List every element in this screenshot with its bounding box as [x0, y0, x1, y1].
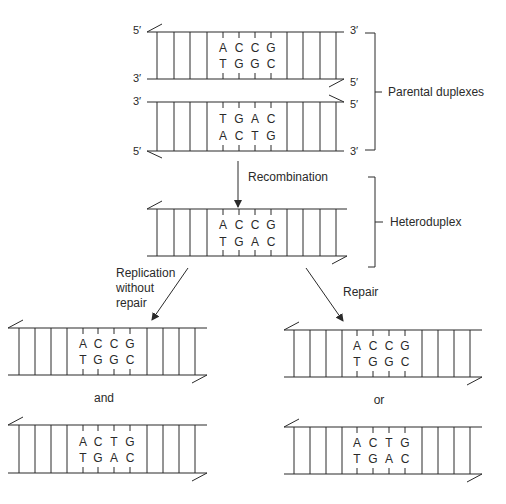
base: T — [79, 353, 87, 367]
base: G — [400, 339, 409, 353]
parental-duplexes-label: Parental duplexes — [388, 85, 484, 99]
base: G — [250, 57, 259, 71]
base: T — [353, 355, 361, 369]
and-label: and — [94, 391, 114, 405]
five-prime-label: 5′ — [133, 24, 141, 36]
repair-duplex-2: A C T G T G A C — [284, 419, 482, 482]
base: T — [79, 451, 87, 465]
base: C — [401, 355, 410, 369]
base: C — [251, 218, 260, 232]
heteroduplex-bracket — [368, 177, 383, 267]
base: G — [266, 41, 275, 55]
recombination-label: Recombination — [248, 170, 328, 184]
base: A — [219, 129, 227, 143]
rungs — [19, 425, 195, 473]
rungs — [157, 32, 336, 79]
rungs — [294, 330, 470, 377]
rungs — [157, 209, 336, 256]
dna-recombination-diagram: A C C G T G G C 5′ 3′ 3′ 5′ — [0, 0, 506, 504]
base: T — [110, 435, 118, 449]
base: A — [79, 337, 87, 351]
base: C — [126, 451, 135, 465]
base: G — [234, 57, 243, 71]
five-prime-label: 5′ — [133, 145, 141, 157]
five-prime-label: 5′ — [350, 98, 358, 110]
rungs — [19, 328, 195, 375]
base: C — [369, 339, 378, 353]
base: A — [219, 218, 227, 232]
rungs — [157, 102, 336, 151]
no-repair-duplex-1: A C C G T G G C — [8, 320, 207, 383]
repair-arrow — [306, 268, 343, 321]
base: T — [385, 436, 393, 450]
base: A — [353, 339, 361, 353]
parental-duplex-2: T G A C A C T G 3′ 5′ 5′ 3′ — [133, 95, 358, 158]
replication-label-line2: without — [115, 281, 155, 295]
base: C — [385, 339, 394, 353]
base: G — [109, 353, 118, 367]
heteroduplex: A C C G T G A C — [147, 201, 347, 264]
base: C — [235, 41, 244, 55]
base: G — [266, 129, 275, 143]
parental-bracket — [365, 33, 382, 150]
base: G — [384, 355, 393, 369]
base: G — [266, 218, 275, 232]
base: G — [400, 436, 409, 450]
base: A — [79, 435, 87, 449]
heteroduplex-label: Heteroduplex — [390, 215, 461, 229]
three-prime-label: 3′ — [350, 145, 358, 157]
base: T — [353, 452, 361, 466]
base: C — [267, 235, 276, 249]
base: C — [267, 57, 276, 71]
repair-duplex-1: A C C G T G G C — [284, 322, 482, 385]
base: A — [251, 112, 259, 126]
replication-label-line1: Replication — [116, 266, 175, 280]
three-prime-label: 3′ — [350, 24, 358, 36]
three-prime-label: 3′ — [133, 95, 141, 107]
base: A — [353, 436, 361, 450]
base: C — [235, 218, 244, 232]
base: A — [110, 451, 118, 465]
base: C — [235, 129, 244, 143]
three-prime-label: 3′ — [133, 72, 141, 84]
base: A — [385, 452, 393, 466]
base: G — [125, 337, 134, 351]
base: A — [219, 41, 227, 55]
base: T — [219, 57, 227, 71]
parental-duplex-1: A C C G T G G C 5′ 3′ 3′ 5′ — [133, 24, 358, 88]
base: A — [251, 235, 259, 249]
base: G — [93, 353, 102, 367]
base: G — [368, 452, 377, 466]
base: C — [267, 112, 276, 126]
base: G — [234, 112, 243, 126]
base: C — [94, 337, 103, 351]
repair-label: Repair — [343, 285, 378, 299]
five-prime-label: 5′ — [350, 76, 358, 88]
base: G — [234, 235, 243, 249]
base: C — [94, 435, 103, 449]
base: T — [219, 235, 227, 249]
base: G — [368, 355, 377, 369]
no-repair-duplex-2: A C T G T G A C — [8, 417, 207, 481]
replication-label-line3: repair — [116, 296, 147, 310]
or-label: or — [374, 393, 385, 407]
base: T — [251, 129, 259, 143]
base: G — [93, 451, 102, 465]
rungs — [294, 427, 470, 474]
base: G — [125, 435, 134, 449]
base: T — [219, 112, 227, 126]
base: C — [126, 353, 135, 367]
base: C — [401, 452, 410, 466]
base: C — [369, 436, 378, 450]
base: C — [251, 41, 260, 55]
base: C — [110, 337, 119, 351]
